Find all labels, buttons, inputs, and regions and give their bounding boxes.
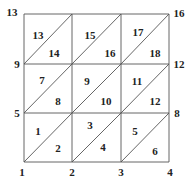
triangle-label-t12: 12 (150, 96, 161, 107)
triangulated-grid-diagram: 1234589121316 12345678910111213141516171… (0, 0, 192, 182)
triangle-label-t17: 17 (133, 27, 144, 38)
triangle-label-t9: 9 (84, 76, 90, 87)
triangle-label-t15: 15 (85, 30, 96, 41)
diagonal-lines (24, 14, 169, 162)
triangle-label-t5: 5 (132, 126, 138, 137)
triangle-label-t10: 10 (101, 96, 112, 107)
triangle-label-t13: 13 (33, 30, 44, 41)
triangle-label-t18: 18 (150, 48, 161, 59)
triangle-label-t6: 6 (152, 146, 158, 157)
triangle-label-t16: 16 (105, 48, 116, 59)
triangle-label-t7: 7 (39, 75, 45, 86)
triangle-label-t1: 1 (35, 126, 41, 137)
vertex-label-v4: 4 (167, 167, 173, 178)
vertex-label-v2: 2 (69, 167, 75, 178)
vertex-label-v5: 5 (14, 108, 20, 119)
triangle-label-t3: 3 (87, 120, 93, 131)
triangle-label-t11: 11 (132, 76, 142, 87)
vertex-label-v1: 1 (19, 167, 25, 178)
vertex-label-v3: 3 (118, 167, 124, 178)
vertex-label-v12: 12 (174, 59, 185, 70)
grid-lines (0, 0, 192, 182)
triangle-label-t8: 8 (55, 96, 61, 107)
vertex-label-v9: 9 (14, 59, 20, 70)
vertex-label-v13: 13 (7, 7, 18, 18)
vertex-label-v16: 16 (174, 8, 185, 19)
triangle-label-t4: 4 (100, 142, 106, 153)
triangle-label-t2: 2 (55, 143, 61, 154)
vertex-label-v8: 8 (174, 108, 180, 119)
triangle-label-t14: 14 (49, 48, 60, 59)
